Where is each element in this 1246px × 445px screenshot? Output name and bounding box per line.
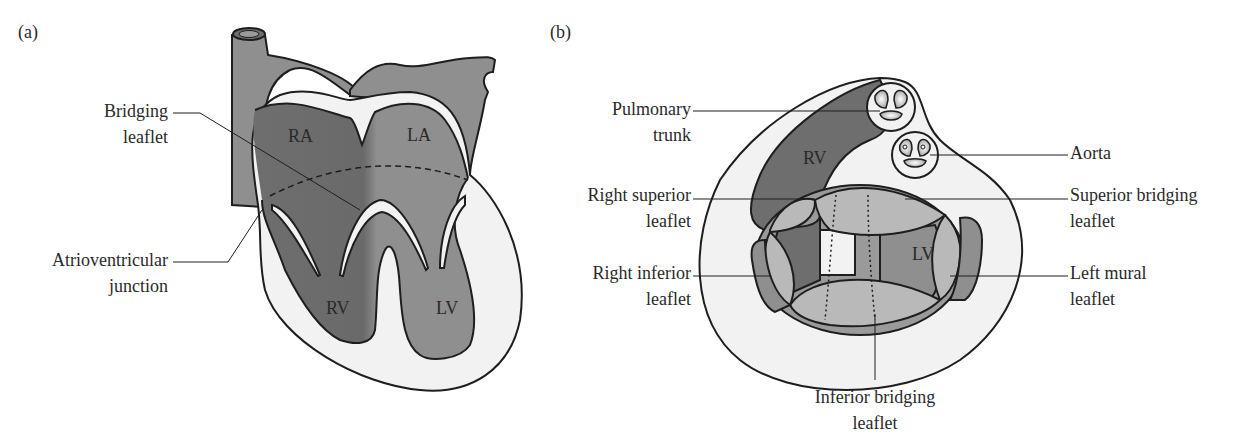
label-bridging-leaflet: Bridging leaflet — [104, 98, 168, 150]
label-inferior-bridging-leaflet: Inferior bridging leaflet — [775, 384, 975, 436]
pulmonary-valve-icon — [867, 83, 915, 131]
label-left-mural-leaflet: Left mural leaflet — [1070, 260, 1146, 312]
label-av-junction: Atrioventricular junction — [52, 247, 168, 299]
label-superior-bridging-leaflet: Superior bridging leaflet — [1070, 182, 1198, 234]
leader-av-junction — [173, 210, 262, 262]
valve-view-b — [693, 78, 1068, 390]
septum-gap — [820, 230, 855, 275]
label-aorta: Aorta — [1070, 140, 1111, 166]
chamber-lv-a: LV — [436, 298, 458, 318]
chamber-la: LA — [407, 125, 431, 145]
label-right-superior-leaflet: Right superior leaflet — [588, 182, 692, 234]
heart-section-a — [173, 28, 522, 391]
chamber-ra: RA — [288, 126, 313, 146]
label-pulmonary-trunk: Pulmonary trunk — [612, 96, 691, 148]
label-right-inferior-leaflet: Right inferior leaflet — [593, 260, 691, 312]
chamber-rv-b: RV — [803, 148, 827, 168]
chamber-lv-b: LV — [912, 244, 934, 264]
chamber-rv-a: RV — [326, 298, 350, 318]
panel-b-tag: (b) — [550, 22, 571, 43]
panel-a-tag: (a) — [18, 22, 38, 43]
